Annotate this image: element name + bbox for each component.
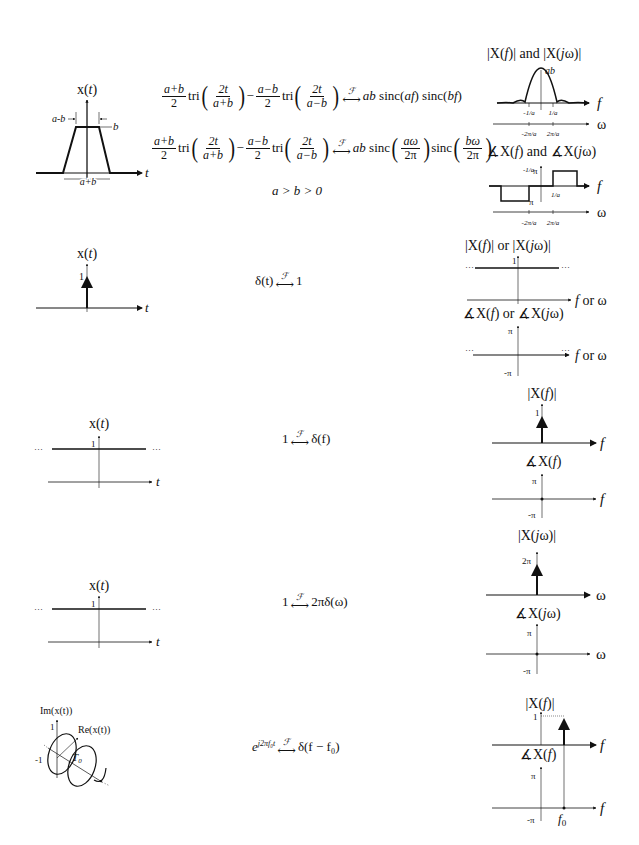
trapezoid-equation-w: a+b2 tri ( 2ta+b ) − a−b2 tri ( 2ta−b ) … <box>150 134 493 162</box>
t-axis-label: t <box>145 300 149 315</box>
impulse-label: 1 <box>535 408 540 418</box>
signal-title: x(t) <box>89 578 110 594</box>
phase-tick-neg-pi: π <box>529 197 534 207</box>
axis-label: f <box>600 491 606 507</box>
phase-w-tick-neg: -2π/a <box>522 219 537 227</box>
re-label: Re(x(t)) <box>78 724 110 736</box>
phase-tick-neg-pi: -π <box>523 666 531 676</box>
phase-title: ∡X(jω) <box>515 606 561 622</box>
phase-title: ∡X(f) or ∡X(jω) <box>463 306 564 322</box>
t-axis-label: t <box>145 165 149 180</box>
w-tick-pos: 2π/a <box>547 130 560 138</box>
phase-f-tick-neg: -1/a <box>523 166 535 174</box>
phase-tick-pi: π <box>531 771 536 781</box>
condition-text: a > b > 0 <box>272 183 322 199</box>
axis-label: f <box>600 800 606 816</box>
f-axis-label: f <box>597 95 603 111</box>
t-axis-label: t <box>156 634 160 649</box>
axis-label: f or ω <box>575 348 607 363</box>
constant-f-magnitude-plot: |X(f)| 1 f <box>480 380 639 450</box>
constant-signal-plot: x(t) ··· ··· 1 t <box>0 410 170 490</box>
constant-w-phase-plot: ∡X(jω) π -π ω <box>480 598 639 678</box>
peak-label: ab <box>545 65 555 76</box>
ellipsis-left: ··· <box>465 262 474 272</box>
phase-tick-pi: π <box>527 628 532 638</box>
phase-w-tick-pos: 2π/a <box>547 219 560 227</box>
f-tick-neg: -1/a <box>523 109 535 117</box>
phase-tick-neg-pi: -π <box>528 510 536 520</box>
trapezoid-equation-f: a+b2 tri ( 2ta+b ) − a−b2 tri ( 2ta−b ) … <box>160 82 462 110</box>
magnitude-title: |X(f)| and |X(jω)| <box>487 46 581 62</box>
f0-label: f0 <box>558 811 567 828</box>
ellipsis-right: ··· <box>561 262 570 272</box>
constant-w-magnitude-plot: |X(jω)| 2π ω <box>480 522 639 598</box>
impulse-label: 2π <box>522 556 532 566</box>
phase-title: ∡X(f) <box>520 747 557 763</box>
impulse-signal-plot: x(t) 1 t <box>0 240 160 330</box>
constant-f-equation: 1 ℱ⟷ δ(f) <box>282 430 330 448</box>
impulse-label: 1 <box>79 271 84 282</box>
complex-exponential-equation: ej2πf₀t ℱ⟷ δ(f − f₀) <box>252 738 340 756</box>
im-label: Im(x(t)) <box>40 705 72 717</box>
ellipsis-right: ··· <box>152 444 161 454</box>
t-axis-label: t <box>156 474 160 489</box>
signal-title: x(t) <box>77 246 98 262</box>
f-tick-pos: 1/a <box>549 109 558 117</box>
constant-signal-plot-2: x(t) ··· ··· 1 t <box>0 572 170 652</box>
phase-f-axis-label: f <box>597 178 603 194</box>
phase-tick-neg-pi: -π <box>527 815 535 825</box>
ellipsis-left: ··· <box>34 604 43 614</box>
ellipsis-left: ··· <box>34 444 43 454</box>
w-tick-neg: -2π/a <box>522 130 537 138</box>
constant-f-phase-plot: ∡X(f) π -π f <box>480 450 639 520</box>
level-label: 1 <box>512 256 517 266</box>
complex-exponential-phase-plot: ∡X(f) π -π f0 f <box>480 745 639 825</box>
width-top-label: a-b <box>52 113 65 124</box>
impulse-magnitude-plot: |X(f)| or |X(jω)| ··· ··· 1 f or ω <box>455 232 639 304</box>
trapezoid-phase-plot: ∡X(f) and ∡X(jω) π π -1/a 1/a f ω -2π/a … <box>485 140 639 230</box>
rhs-f: ab sinc(af) sinc(bf) <box>363 88 462 104</box>
ellipsis-left: ··· <box>465 345 474 355</box>
trapezoid-magnitude-plot: |X(f)| and |X(jω)| ab f -1/a 1/a ω -2π/a… <box>485 40 639 140</box>
period-label: T0 <box>72 751 82 765</box>
level-label: 1 <box>91 599 96 609</box>
magnitude-title: |X(f)| <box>528 386 557 402</box>
phase-tick-pi: π <box>532 476 537 486</box>
width-bottom-label: a+b <box>80 176 97 187</box>
phase-w-axis-label: ω <box>597 205 606 220</box>
ellipsis-right: ··· <box>561 345 570 355</box>
axis-label: f <box>600 435 606 451</box>
phase-f-tick-pos: 1/a <box>551 191 560 199</box>
phase-tick-neg-pi: -π <box>504 368 512 378</box>
magnitude-title: |X(f)| <box>526 696 555 712</box>
impulse-label: 1 <box>533 712 538 722</box>
signal-title: x(t) <box>77 82 98 98</box>
axis-label: ω <box>596 646 606 662</box>
magnitude-title: |X(f)| or |X(jω)| <box>465 238 551 254</box>
phase-title: ∡X(f) and ∡X(jω) <box>487 144 596 160</box>
phase-title: ∡X(f) <box>525 454 562 470</box>
magnitude-title: |X(jω)| <box>518 528 556 544</box>
impulse-equation: δ(t) ℱ⟷ 1 <box>255 272 303 290</box>
complex-exponential-helix-plot: Im(x(t)) Re(x(t)) 1 -1 T0 <box>0 700 120 800</box>
tick-neg: -1 <box>35 755 43 765</box>
height-label: b <box>113 120 119 132</box>
impulse-phase-plot: ∡X(f) or ∡X(jω) π -π ··· ··· f or ω <box>455 304 639 380</box>
signal-title: x(t) <box>89 416 110 432</box>
w-axis-label: ω <box>597 117 606 132</box>
level-label: 1 <box>91 439 96 449</box>
trapezoid-signal-plot: x(t) a-b b a+b t <box>0 60 160 200</box>
ellipsis-right: ··· <box>152 604 161 614</box>
complex-exponential-magnitude-plot: |X(f)| 1 f <box>480 690 639 750</box>
phase-tick-pi: π <box>508 326 513 336</box>
constant-w-equation: 1 ℱ⟷ 2πδ(ω) <box>282 593 348 611</box>
tick-pos: 1 <box>50 722 55 732</box>
